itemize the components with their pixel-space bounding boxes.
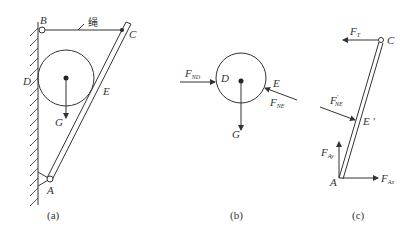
label-rope: 绳: [88, 16, 98, 28]
label-c: C: [129, 28, 137, 40]
label-g: G: [232, 128, 240, 140]
caption-a: (a): [47, 209, 60, 222]
statics-diagram: B 绳 C D E G A (a) FND D E FNE G (b) F: [0, 0, 412, 235]
label-f-ay: FAy: [320, 146, 334, 159]
label-d: D: [220, 72, 229, 84]
hinge-a-icon: [47, 176, 53, 182]
wall-hatching: [30, 28, 38, 206]
caption-b: (b): [230, 209, 243, 222]
label-a: A: [46, 184, 54, 196]
label-a: A: [329, 176, 337, 188]
label-f-ne-prime: F'NE: [329, 94, 343, 107]
label-c: C: [387, 34, 395, 46]
label-f-nd: FND: [184, 67, 201, 80]
label-f-ne: FNE: [269, 96, 285, 109]
figure-c: FT C F'NE E ' FAy A FAx (c): [320, 25, 395, 222]
label-e: E: [272, 77, 280, 89]
label-g: G: [55, 116, 63, 128]
label-e: E: [102, 85, 110, 97]
figure-a: B 绳 C D E G A (a): [22, 14, 137, 222]
hinge-b-icon: [39, 27, 45, 33]
label-e-prime: E ': [362, 115, 375, 127]
force-ne-prime-arrow: [320, 107, 355, 120]
pin-c-icon: [379, 38, 384, 43]
label-f-ax: FAx: [380, 172, 394, 185]
caption-c: (c): [352, 209, 365, 222]
label-d: D: [22, 75, 31, 87]
figure-b: FND D E FNE G (b): [180, 53, 297, 222]
label-b: B: [40, 14, 47, 26]
label-f-t: FT: [349, 25, 361, 38]
